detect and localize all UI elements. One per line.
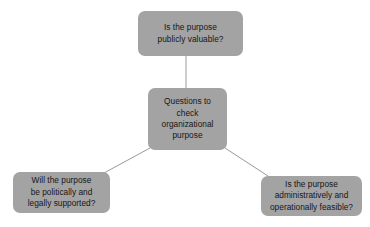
- node-publicly-valuable-label: Is the purpose publicly valuable?: [154, 22, 228, 45]
- node-publicly-valuable: Is the purpose publicly valuable?: [138, 11, 243, 56]
- node-center-questions: Questions to check organizational purpos…: [148, 88, 227, 150]
- node-politically-legally-supported-label: Will the purpose be politically and lega…: [24, 175, 100, 209]
- node-center-questions-label: Questions to check organizational purpos…: [158, 96, 218, 142]
- node-administratively-operationally-feasible: Is the purpose administratively and oper…: [261, 176, 362, 216]
- organizational-purpose-diagram: Is the purpose publicly valuable? Questi…: [0, 0, 370, 227]
- connector-center-to-bottom-right: [225, 148, 268, 176]
- connector-center-to-bottom-left: [104, 148, 150, 173]
- node-administratively-operationally-feasible-label: Is the purpose administratively and oper…: [266, 179, 357, 213]
- node-politically-legally-supported: Will the purpose be politically and lega…: [13, 172, 110, 213]
